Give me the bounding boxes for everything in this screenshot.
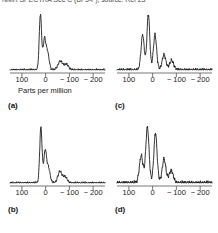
spectrum-trace-b bbox=[6, 125, 109, 195]
x-tick-labels-b: 1000− 100− 200 bbox=[6, 188, 109, 200]
x-axis-caption: Parts per million bbox=[18, 86, 72, 96]
x-tick-label: − 100 bbox=[60, 75, 79, 85]
x-tick-labels-d: 1000− 100− 200 bbox=[113, 188, 216, 200]
panel-label-b: (b) bbox=[8, 205, 18, 215]
spectrum-trace-d bbox=[113, 125, 216, 195]
spectrum-trace-c bbox=[113, 12, 216, 82]
spectrum-curve bbox=[10, 127, 105, 183]
x-tick-label: 100 bbox=[16, 75, 29, 85]
spectrum-curve bbox=[10, 14, 105, 70]
x-tick-label: − 100 bbox=[167, 75, 186, 85]
x-tick-labels-c: 1000− 100− 200 bbox=[113, 75, 216, 87]
x-tick-label: − 200 bbox=[191, 75, 210, 85]
x-tick-label: 0 bbox=[44, 75, 48, 85]
x-tick-label: 0 bbox=[151, 75, 155, 85]
spectrum-plot-c bbox=[113, 12, 216, 82]
clipped-caption-header: NMR SPECTRA See C (BF3-F); source: Ref 2… bbox=[2, 0, 216, 4]
spectrum-plot-b bbox=[6, 125, 109, 195]
x-tick-label: 0 bbox=[151, 188, 155, 198]
spectrum-panel-c: 1000− 100− 200 (c) bbox=[113, 12, 216, 115]
nmr-spectra-figure: NMR SPECTRA See C (BF3-F); source: Ref 2… bbox=[0, 0, 218, 233]
panel-label-c: (c) bbox=[115, 101, 125, 111]
x-tick-label: − 100 bbox=[167, 188, 186, 198]
spectrum-panel-d: 1000− 100− 200 (d) bbox=[113, 125, 216, 228]
x-tick-label: 100 bbox=[16, 188, 29, 198]
panel-label-a: (a) bbox=[8, 101, 18, 111]
x-tick-label: − 200 bbox=[191, 188, 210, 198]
spectrum-plot-a bbox=[6, 12, 109, 82]
spectrum-plot-d bbox=[113, 125, 216, 195]
x-tick-label: 100 bbox=[123, 75, 136, 85]
x-tick-label: 0 bbox=[44, 188, 48, 198]
panel-label-d: (d) bbox=[115, 205, 125, 215]
spectrum-panel-b: 1000− 100− 200 (b) bbox=[6, 125, 109, 228]
spectrum-panel-a: 1000− 100− 200 Parts per million (a) bbox=[6, 12, 109, 115]
x-tick-label: 100 bbox=[123, 188, 136, 198]
spectrum-curve bbox=[117, 126, 212, 183]
spectrum-trace-a bbox=[6, 12, 109, 82]
x-tick-label: − 100 bbox=[60, 188, 79, 198]
spectrum-curve bbox=[117, 15, 212, 70]
x-tick-label: − 200 bbox=[84, 75, 103, 85]
x-tick-label: − 200 bbox=[84, 188, 103, 198]
